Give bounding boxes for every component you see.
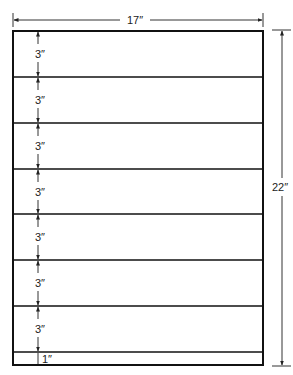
row-label: 3″: [35, 186, 45, 198]
width-label: 17″: [127, 14, 143, 26]
row-dimension-7: 3″: [35, 307, 45, 351]
sheet-diagram: 17″ 22″ 3″ 3″ 3″ 3″: [0, 0, 293, 375]
row-dimension-4: 3″: [35, 170, 45, 213]
row-dimension-1: 3″: [35, 32, 45, 76]
width-dimension: 17″: [13, 13, 263, 27]
row-label: 3″: [35, 94, 45, 106]
row-label: 3″: [35, 231, 45, 243]
row-label: 3″: [35, 140, 45, 152]
height-label: 22″: [272, 181, 288, 193]
row-label: 3″: [35, 48, 45, 60]
row-dividers: [13, 77, 263, 352]
row-dimension-6: 3″: [35, 261, 45, 305]
height-dimension: 22″: [272, 30, 291, 366]
row-label: 1″: [42, 353, 52, 365]
row-dimension-5: 3″: [35, 215, 45, 259]
sheet-outline: [13, 31, 263, 365]
row-dimension-2: 3″: [35, 78, 45, 122]
row-dimension-3: 3″: [35, 124, 45, 168]
row-label: 3″: [35, 277, 45, 289]
row-dimension-8: 1″: [38, 353, 52, 365]
row-label: 3″: [35, 323, 45, 335]
